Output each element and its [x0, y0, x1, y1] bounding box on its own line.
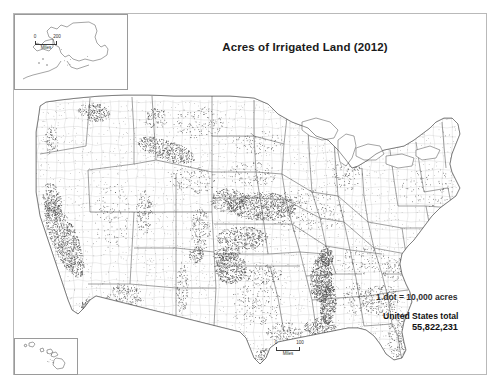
main-scale-unit: Miles — [276, 352, 300, 357]
alaska-inset-map — [15, 15, 127, 89]
main-scale-min: 0 — [275, 341, 278, 346]
legend-total-value: 55,822,231 — [383, 322, 487, 332]
main-scale-max: 100 — [296, 341, 304, 346]
legend-total-label: United States total — [383, 311, 458, 321]
legend-dot-value: 1 dot = 10,000 acres — [376, 292, 457, 302]
alaska-scale-bar — [35, 41, 57, 45]
main-scalebar: 0 100 Miles — [276, 341, 300, 356]
alaska-scale-unit: Miles — [35, 46, 57, 51]
alaska-scalebar: 0 200 Miles — [35, 35, 57, 50]
alaska-inset: 0 200 Miles — [14, 14, 128, 90]
alaska-scale-min: 0 — [34, 35, 37, 40]
map-page: Acres of Irrigated Land (2012) 0 200 Mil… — [0, 0, 504, 391]
alaska-scale-max: 200 — [53, 35, 61, 40]
main-scale-bar — [276, 347, 300, 351]
page-title: Acres of Irrigated Land (2012) — [160, 41, 450, 53]
great-lakes — [302, 118, 440, 168]
